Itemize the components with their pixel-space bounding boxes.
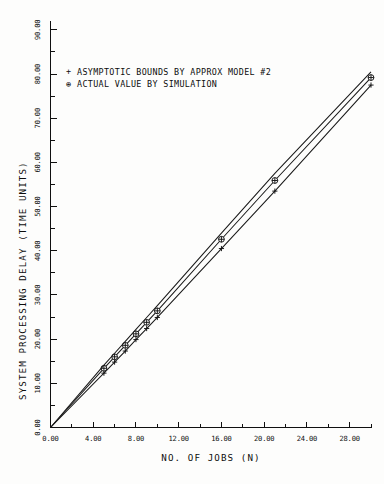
series-layer bbox=[51, 72, 374, 428]
chart-canvas: 0.0010.0020.0030.0040.0050.0060.0070.008… bbox=[0, 0, 384, 484]
y-tick-label: 20.00 bbox=[33, 329, 42, 349]
y-tick-label: 30.00 bbox=[33, 285, 42, 305]
data-point-circle-plus bbox=[368, 75, 374, 81]
data-point-circle-plus bbox=[154, 308, 160, 314]
series-line bbox=[51, 78, 372, 428]
x-axis-title: NO. OF JOBS (N) bbox=[161, 452, 260, 463]
y-axis-group: 0.0010.0020.0030.0040.0050.0060.0070.008… bbox=[17, 20, 57, 436]
x-tick-label: 0.00 bbox=[42, 434, 58, 443]
x-tick-label: 20.00 bbox=[254, 434, 274, 443]
y-tick-label: 50.00 bbox=[33, 196, 42, 216]
y-tick-label: 90.00 bbox=[33, 20, 42, 40]
x-tick-label: 4.00 bbox=[85, 434, 101, 443]
x-tick-label: 12.00 bbox=[169, 434, 189, 443]
y-tick-label: 80.00 bbox=[33, 64, 42, 84]
x-axis-group: 0.004.008.0012.0016.0020.0024.0028.00 NO… bbox=[42, 422, 371, 464]
chart-legend: +ASYMPTOTIC BOUNDS BY APPROX MODEL #2⊕AC… bbox=[66, 67, 271, 89]
y-axis-title: SYSTEM PROCESSING DELAY (TIME UNITS) bbox=[17, 161, 28, 400]
y-tick-label: 40.00 bbox=[33, 241, 42, 261]
y-tick-label: 0.00 bbox=[33, 419, 42, 435]
series-0 bbox=[51, 82, 374, 427]
chart-figure: 0.0010.0020.0030.0040.0050.0060.0070.008… bbox=[0, 0, 384, 484]
x-tick-marks bbox=[51, 422, 372, 428]
y-tick-label: 10.00 bbox=[33, 373, 42, 393]
legend-label-1: ACTUAL VALUE BY SIMULATION bbox=[77, 79, 217, 89]
y-tick-label: 70.00 bbox=[33, 108, 42, 128]
y-tick-marks bbox=[51, 30, 57, 428]
y-tick-labels: 0.0010.0020.0030.0040.0050.0060.0070.008… bbox=[33, 20, 42, 436]
series-1 bbox=[51, 75, 374, 428]
x-tick-labels: 0.004.008.0012.0016.0020.0024.0028.00 bbox=[42, 434, 359, 443]
y-tick-label: 60.00 bbox=[33, 152, 42, 172]
x-tick-label: 16.00 bbox=[211, 434, 231, 443]
x-tick-label: 28.00 bbox=[339, 434, 359, 443]
legend-label-0: ASYMPTOTIC BOUNDS BY APPROX MODEL #2 bbox=[77, 67, 271, 77]
legend-symbol-1: ⊕ bbox=[66, 79, 71, 89]
legend-symbol-0: + bbox=[66, 67, 71, 77]
x-tick-label: 24.00 bbox=[297, 434, 317, 443]
series-line bbox=[51, 85, 372, 427]
x-tick-label: 8.00 bbox=[128, 434, 144, 443]
data-point-circle-plus bbox=[272, 178, 278, 184]
data-point-circle-plus bbox=[219, 236, 225, 242]
